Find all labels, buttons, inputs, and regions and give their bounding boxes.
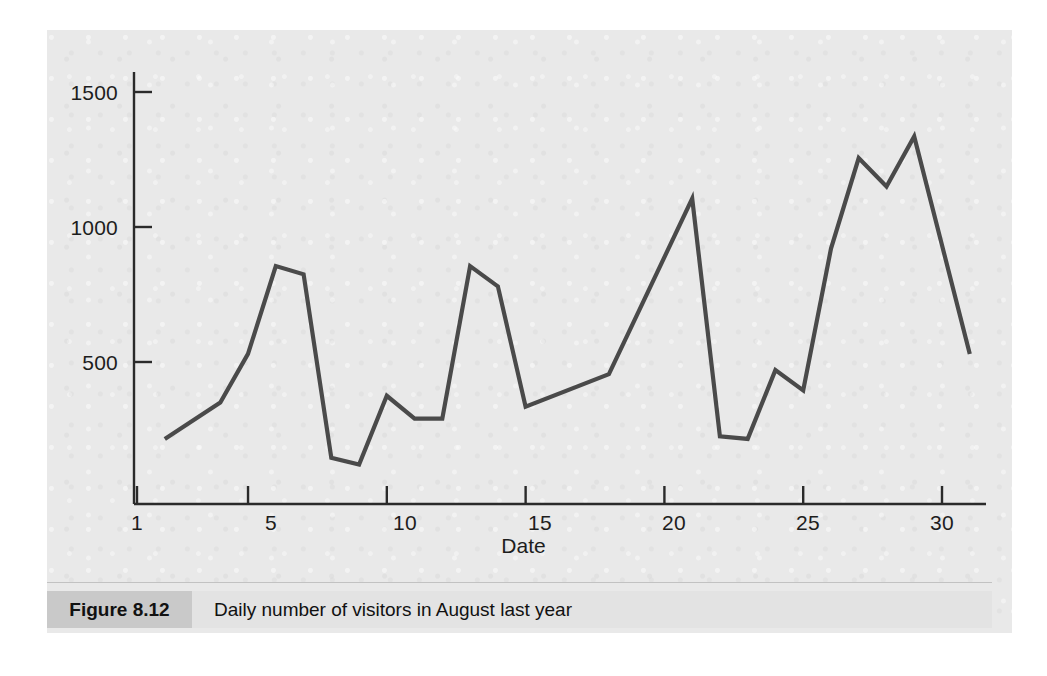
x-tick-label-20: 20 — [644, 511, 704, 535]
x-tick-label-10: 10 — [375, 511, 435, 535]
x-tick-label-5: 5 — [241, 511, 301, 535]
figure-number-label: Figure 8.12 — [47, 591, 192, 628]
figure-caption-bar: Figure 8.12 Daily number of visitors in … — [47, 591, 992, 628]
x-axis-title: Date — [0, 534, 1047, 558]
x-tick-label-25: 25 — [778, 511, 838, 535]
caption-divider-rule — [47, 582, 992, 583]
x-tick-label-30: 30 — [912, 511, 972, 535]
x-tick-label-1: 1 — [107, 511, 167, 535]
y-tick-label-1000: 1000 — [28, 216, 118, 240]
y-tick-label-500: 500 — [28, 351, 118, 375]
y-tick-label-1500: 1500 — [28, 81, 118, 105]
figure-caption-text: Daily number of visitors in August last … — [192, 599, 572, 621]
x-tick-label-15: 15 — [510, 511, 570, 535]
